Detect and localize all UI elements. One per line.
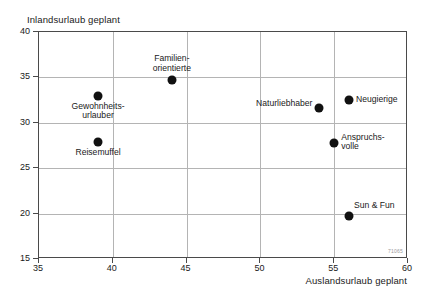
- data-point-label: Sun & Fun: [354, 202, 395, 212]
- data-point: [330, 138, 339, 147]
- y-axis-tick-label: 20: [8, 208, 30, 218]
- y-axis-title: Inlandsurlaub geplant: [27, 14, 120, 25]
- gridline-vertical: [260, 32, 261, 257]
- data-point-label: Neugierige: [356, 95, 398, 105]
- x-axis-tick-label: 55: [328, 263, 338, 273]
- data-point-label: Reisemuffel: [75, 148, 120, 158]
- x-axis-tick-label: 50: [254, 263, 264, 273]
- y-axis-tick: [33, 122, 38, 123]
- x-axis-tick-label: 45: [181, 263, 191, 273]
- y-axis-tick-label: 40: [8, 26, 30, 36]
- x-axis-tick-label: 35: [33, 263, 43, 273]
- gridline-horizontal: [39, 123, 406, 124]
- y-axis-tick-label: 35: [8, 71, 30, 81]
- data-point: [315, 104, 324, 113]
- watermark-code: 71065: [388, 248, 403, 254]
- gridline-horizontal: [39, 168, 406, 169]
- x-axis-title: Auslandsurlaub geplant: [306, 275, 408, 286]
- data-point-label: Gewohnheits- urlauber: [72, 102, 125, 121]
- x-axis-tick-label: 40: [107, 263, 117, 273]
- data-point-label: Anspruchs- volle: [341, 133, 384, 152]
- y-axis-tick: [33, 76, 38, 77]
- data-point-label: Familien- orientierte: [153, 54, 191, 73]
- data-point: [344, 212, 353, 221]
- y-axis-tick-label: 25: [8, 162, 30, 172]
- plot-area: Gewohnheits- urlauberReisemuffelFamilien…: [38, 31, 407, 258]
- gridline-horizontal: [39, 77, 406, 78]
- gridline-vertical: [113, 32, 114, 257]
- y-axis-tick: [33, 213, 38, 214]
- y-axis-tick: [33, 167, 38, 168]
- data-point: [167, 76, 176, 85]
- data-point: [94, 91, 103, 100]
- y-axis-tick-label: 30: [8, 117, 30, 127]
- y-axis-tick: [33, 31, 38, 32]
- x-axis-tick-label: 60: [402, 263, 412, 273]
- scatter-chart-figure: Inlandsurlaub geplant Auslandsurlaub gep…: [0, 0, 435, 296]
- data-point-label: Naturliebhaber: [256, 99, 312, 109]
- data-point: [344, 96, 353, 105]
- data-point: [94, 137, 103, 146]
- y-axis-tick-label: 15: [8, 253, 30, 263]
